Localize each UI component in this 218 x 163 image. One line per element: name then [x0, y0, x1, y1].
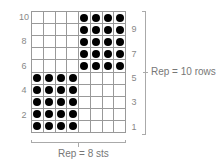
chart-cell	[44, 97, 56, 109]
purl-dot-icon	[33, 86, 41, 94]
chart-cell	[79, 36, 91, 48]
row-repeat-tick	[143, 72, 148, 73]
chart-cell	[79, 97, 91, 109]
purl-dot-icon	[116, 38, 124, 46]
chart-cell	[79, 73, 91, 85]
purl-dot-icon	[92, 38, 100, 46]
purl-dot-icon	[92, 62, 100, 70]
chart-cell	[114, 85, 126, 97]
purl-dot-icon	[57, 98, 65, 106]
chart-cell	[79, 60, 91, 72]
purl-dot-icon	[57, 122, 65, 130]
purl-dot-icon	[92, 14, 100, 22]
purl-dot-icon	[33, 98, 41, 106]
chart-cell	[67, 85, 79, 97]
chart-cell	[91, 121, 103, 133]
chart-cell	[44, 48, 56, 60]
chart-cell	[79, 85, 91, 97]
chart-cell	[79, 48, 91, 60]
row-number: 6	[18, 61, 30, 71]
chart-cell	[67, 36, 79, 48]
knitting-chart-grid	[31, 11, 126, 133]
chart-cell	[91, 36, 103, 48]
chart-cell	[56, 12, 68, 24]
chart-cell	[103, 36, 115, 48]
purl-dot-icon	[104, 38, 112, 46]
chart-cell	[56, 48, 68, 60]
purl-dot-icon	[116, 14, 124, 22]
purl-dot-icon	[45, 86, 53, 94]
purl-dot-icon	[92, 26, 100, 34]
purl-dot-icon	[104, 26, 112, 34]
purl-dot-icon	[116, 62, 124, 70]
chart-cell	[44, 85, 56, 97]
chart-cell	[32, 97, 44, 109]
chart-cell	[56, 85, 68, 97]
chart-cell	[114, 121, 126, 133]
purl-dot-icon	[57, 110, 65, 118]
purl-dot-icon	[57, 86, 65, 94]
row-number: 8	[18, 36, 30, 46]
chart-cell	[44, 60, 56, 72]
purl-dot-icon	[45, 122, 53, 130]
chart-cell	[91, 60, 103, 72]
chart-cell	[103, 97, 115, 109]
chart-cell	[91, 109, 103, 121]
purl-dot-icon	[33, 122, 41, 130]
row-number: 1	[128, 122, 140, 132]
chart-cell	[79, 12, 91, 24]
chart-cell	[56, 73, 68, 85]
purl-dot-icon	[80, 62, 88, 70]
purl-dot-icon	[69, 74, 77, 82]
row-number: 5	[128, 73, 140, 83]
chart-cell	[79, 24, 91, 36]
chart-cell	[114, 73, 126, 85]
chart-cell	[56, 36, 68, 48]
chart-cell	[56, 60, 68, 72]
chart-cell	[32, 24, 44, 36]
stitch-repeat-tick	[78, 143, 79, 147]
stitch-repeat-label: Rep = 8 sts	[58, 148, 109, 159]
chart-cell	[32, 121, 44, 133]
chart-cell	[91, 24, 103, 36]
chart-cell	[56, 109, 68, 121]
chart-cell	[114, 36, 126, 48]
chart-cell	[114, 97, 126, 109]
chart-cell	[79, 121, 91, 133]
purl-dot-icon	[69, 110, 77, 118]
purl-dot-icon	[80, 14, 88, 22]
chart-cell	[103, 48, 115, 60]
chart-cell	[103, 109, 115, 121]
chart-cell	[103, 73, 115, 85]
chart-cell	[44, 121, 56, 133]
purl-dot-icon	[33, 74, 41, 82]
purl-dot-icon	[45, 74, 53, 82]
chart-cell	[103, 121, 115, 133]
chart-cell	[44, 36, 56, 48]
chart-cell	[44, 24, 56, 36]
chart-cell	[56, 24, 68, 36]
purl-dot-icon	[104, 62, 112, 70]
chart-cell	[79, 109, 91, 121]
chart-cell	[67, 121, 79, 133]
purl-dot-icon	[33, 110, 41, 118]
row-number: 9	[128, 24, 140, 34]
purl-dot-icon	[80, 26, 88, 34]
chart-cell	[114, 48, 126, 60]
chart-cell	[91, 97, 103, 109]
chart-cell	[103, 85, 115, 97]
purl-dot-icon	[92, 50, 100, 58]
chart-cell	[44, 73, 56, 85]
purl-dot-icon	[80, 38, 88, 46]
purl-dot-icon	[69, 98, 77, 106]
chart-cell	[67, 12, 79, 24]
purl-dot-icon	[69, 122, 77, 130]
row-number: 10	[18, 12, 30, 22]
purl-dot-icon	[80, 50, 88, 58]
purl-dot-icon	[104, 14, 112, 22]
row-repeat-label: Rep = 10 rows	[151, 66, 216, 77]
chart-cell	[91, 85, 103, 97]
chart-cell	[32, 73, 44, 85]
purl-dot-icon	[104, 50, 112, 58]
chart-cell	[32, 36, 44, 48]
